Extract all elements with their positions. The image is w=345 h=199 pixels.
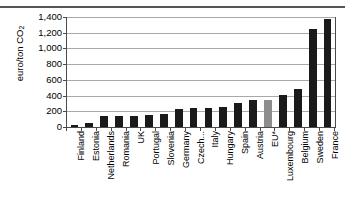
x-axis-label-slot: Belgium: [289, 131, 304, 199]
bar: [234, 103, 242, 127]
bar: [249, 100, 257, 127]
bar: [205, 108, 213, 127]
x-axis-category-label: France: [331, 131, 340, 159]
bar: [264, 100, 272, 127]
x-axis-label-slot: EU*: [260, 131, 275, 199]
y-axis-tick-label: 1,000: [28, 44, 62, 54]
bar-slot: [320, 17, 335, 127]
y-axis-tick-label: 1,400: [28, 12, 62, 22]
bar-slot: [275, 17, 290, 127]
y-axis-tick-mark: [63, 96, 67, 97]
x-axis-category-labels: FinlandEstoniaNetherlandsRomaniaUKPortug…: [66, 131, 334, 199]
y-axis-tick-mark: [63, 111, 67, 112]
bar-slot: [246, 17, 261, 127]
y-axis-tick-mark: [63, 80, 67, 81]
x-axis-label-slot: UK: [126, 131, 141, 199]
bar-slot: [186, 17, 201, 127]
x-axis-label-slot: Spain: [230, 131, 245, 199]
y-axis-tick-label: 1,200: [28, 28, 62, 38]
bar-slot: [290, 17, 305, 127]
y-axis-title-text: euro/ton CO: [14, 30, 25, 82]
bar-slot: [82, 17, 97, 127]
y-axis-tick-mark: [63, 17, 67, 18]
chart-figure: euro/ton CO2 02004006008001,0001,2001,40…: [0, 0, 345, 199]
bar-slot: [201, 17, 216, 127]
y-axis-tick-label: 400: [28, 91, 62, 101]
bar: [324, 19, 332, 127]
bar: [190, 108, 198, 127]
y-axis-tick-label: 0: [28, 122, 62, 132]
bar-slot: [156, 17, 171, 127]
bar: [130, 116, 138, 127]
bar: [279, 95, 287, 127]
y-axis-tick-mark: [63, 48, 67, 49]
x-axis-label-slot: Finland: [66, 131, 81, 199]
y-axis-title: euro/ton CO2: [14, 10, 25, 98]
x-axis-label-slot: Netherlands: [96, 131, 111, 199]
x-axis-label-slot: Austria: [245, 131, 260, 199]
bar-slot: [171, 17, 186, 127]
x-axis-label-slot: Czech...: [185, 131, 200, 199]
x-axis-label-slot: Slovenia: [155, 131, 170, 199]
y-axis-tick-mark: [63, 64, 67, 65]
y-axis-tick-label: 600: [28, 75, 62, 85]
bar: [145, 115, 153, 127]
x-axis-label-slot: Romania: [111, 131, 126, 199]
bar: [219, 107, 227, 127]
bar-slot: [127, 17, 142, 127]
bar: [175, 109, 183, 127]
bar-slot: [261, 17, 276, 127]
bar: [100, 116, 108, 127]
bar-slot: [231, 17, 246, 127]
x-axis-label-slot: Hungary: [215, 131, 230, 199]
bar-slot: [67, 17, 82, 127]
bar: [115, 116, 123, 127]
bar: [309, 29, 317, 127]
x-axis-label-slot: Italy: [200, 131, 215, 199]
y-axis-tick-label: 800: [28, 59, 62, 69]
x-axis-label-slot: Luxembourg: [274, 131, 289, 199]
x-axis-label-slot: Portugal: [140, 131, 155, 199]
plot-area: [66, 17, 336, 128]
x-axis-label-slot: Germany: [170, 131, 185, 199]
x-axis-label-slot: Sweden: [304, 131, 319, 199]
x-axis-label-slot: France: [319, 131, 334, 199]
y-axis-tick-label: 200: [28, 107, 62, 117]
bar-series: [67, 17, 335, 127]
y-axis-tick-labels: 02004006008001,0001,2001,400: [24, 0, 62, 199]
bar-slot: [305, 17, 320, 127]
bar-slot: [141, 17, 156, 127]
bar-slot: [97, 17, 112, 127]
y-axis-tick-mark: [63, 33, 67, 34]
x-axis-label-slot: Estonia: [81, 131, 96, 199]
bar: [160, 114, 168, 128]
bar-slot: [112, 17, 127, 127]
bar: [294, 89, 302, 127]
bar-slot: [216, 17, 231, 127]
